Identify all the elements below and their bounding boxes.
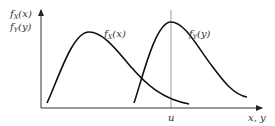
x-axis-label: x, y [248,112,266,123]
curve-fx [47,32,189,104]
curve-label-fy: fY(y) [188,28,211,41]
y-axis-label-fy: fY(y) [9,21,32,34]
density-diagram: fX(x) fY(y) fX(x) fY(y) u x, y [0,0,275,126]
marker-label-u: u [168,112,174,123]
y-axis-label-fx: fX(x) [9,8,32,21]
